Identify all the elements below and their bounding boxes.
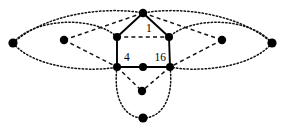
curve-top-arc-left — [13, 11, 143, 43]
label-4: 4 — [124, 51, 130, 63]
edge-top-inner-right — [143, 13, 222, 40]
label-16: 16 — [155, 51, 167, 63]
graph-svg: 1416 — [0, 0, 286, 130]
edge-upper-right-bottom-right — [169, 37, 170, 67]
node-upper-right — [165, 33, 173, 41]
curve-top-arc-right — [143, 11, 272, 43]
node-bottom-right — [166, 63, 174, 71]
edge-top-inner-left — [64, 13, 143, 40]
edges-layer — [64, 13, 222, 91]
node-inner-right — [218, 36, 226, 44]
node-lower-mid — [138, 87, 146, 95]
edge-bottom-right-lower-mid — [142, 67, 170, 91]
diagram-root: 1416 — [0, 0, 286, 130]
curve-left-ellipse-lower — [13, 43, 117, 69]
edge-bottom-left-lower-mid — [117, 67, 142, 91]
node-far-right — [267, 38, 276, 47]
edge-inner-left-bottom-left — [64, 40, 117, 67]
node-bottom-left — [113, 63, 121, 71]
curve-bottom-loop-right — [143, 67, 171, 118]
edge-inner-right-bottom-right — [170, 40, 222, 67]
nodes-layer — [8, 9, 276, 123]
curve-right-ellipse-lower — [170, 43, 272, 69]
edge-top-upper-left — [117, 13, 143, 37]
node-lower-bottom — [138, 113, 147, 122]
node-bottom-mid — [139, 63, 147, 71]
label-1: 1 — [146, 22, 152, 34]
node-inner-left — [60, 36, 68, 44]
node-top — [139, 9, 147, 17]
node-upper-left — [113, 33, 121, 41]
node-far-left — [8, 38, 17, 47]
